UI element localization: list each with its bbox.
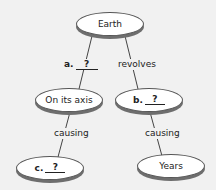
node-earth-label: Earth bbox=[98, 19, 122, 29]
node-c: c.? bbox=[16, 156, 84, 180]
node-years-label: Years bbox=[159, 161, 183, 171]
link-letter-a: a. bbox=[64, 59, 74, 69]
link-label-revolves: revolves bbox=[117, 59, 157, 70]
concept-map: a.? revolves causing causing Earth On it… bbox=[0, 0, 216, 190]
node-c-letter: c. bbox=[35, 163, 44, 173]
node-on-its-axis: On its axis bbox=[35, 88, 103, 112]
node-b: b.? bbox=[115, 88, 183, 112]
node-b-letter: b. bbox=[133, 95, 143, 105]
answer-blank-a[interactable]: ? bbox=[76, 60, 98, 70]
node-years: Years bbox=[137, 154, 205, 178]
link-label-a: a.? bbox=[63, 59, 99, 70]
link-label-causing-left: causing bbox=[53, 128, 90, 139]
node-earth: Earth bbox=[76, 12, 144, 36]
answer-blank-b[interactable]: ? bbox=[145, 95, 165, 105]
node-on-its-axis-label: On its axis bbox=[45, 95, 92, 105]
answer-blank-c[interactable]: ? bbox=[45, 163, 65, 173]
link-label-causing-right: causing bbox=[144, 128, 181, 139]
